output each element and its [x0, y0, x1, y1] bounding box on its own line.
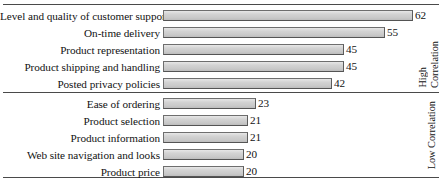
bar-area: 55 [163, 27, 385, 40]
bar [163, 78, 332, 89]
table-row: Level and quality of customer support 62 [0, 8, 442, 25]
table-row: Product selection 21 [0, 113, 442, 130]
table-row: Ease of ordering 23 [0, 96, 442, 113]
group-high-correlation: Level and quality of customer support 62… [0, 8, 442, 90]
bar-category-label: On-time delivery [0, 25, 160, 42]
bar-area: 20 [163, 166, 244, 179]
bar-value-label: 42 [334, 77, 345, 90]
bar-value-label: 20 [246, 148, 257, 161]
table-row: Web site navigation and looks 20 [0, 147, 442, 164]
bar [163, 61, 344, 72]
bar-area: 62 [163, 10, 413, 23]
bar [163, 166, 244, 177]
bar-value-label: 23 [258, 97, 269, 110]
bar-area: 23 [163, 98, 256, 111]
bar-area: 45 [163, 61, 344, 74]
bar-value-label: 45 [346, 60, 357, 73]
correlation-bar-chart: Level and quality of customer support 62… [0, 0, 442, 184]
bar-value-label: 62 [415, 9, 426, 22]
bar-area: 45 [163, 44, 344, 57]
group-caption-line: High [417, 67, 428, 88]
group-caption-low-correlation: Low Correlation [420, 100, 442, 170]
table-row: Product price 20 [0, 164, 442, 181]
bar [163, 115, 248, 126]
bar [163, 132, 248, 143]
bar-value-label: 20 [246, 165, 257, 178]
bar [163, 10, 413, 21]
group-caption-high-correlation: High Correlation [414, 28, 442, 88]
bar-value-label: 21 [250, 114, 261, 127]
table-row: Product shipping and handling 45 [0, 59, 442, 76]
bar-area: 42 [163, 78, 332, 91]
bar-category-label: Ease of ordering [0, 96, 160, 113]
bar-area: 20 [163, 149, 244, 162]
bar-value-label: 21 [250, 131, 261, 144]
bar [163, 98, 256, 109]
table-row: On-time delivery 55 [0, 25, 442, 42]
bar-category-label: Product shipping and handling [0, 59, 160, 76]
bar-value-label: 45 [346, 43, 357, 56]
bar-category-label: Product selection [0, 113, 160, 130]
table-row: Product representation 45 [0, 42, 442, 59]
bar-category-label: Posted privacy policies [0, 76, 160, 93]
bar-area: 21 [163, 115, 248, 128]
bar [163, 149, 244, 160]
bar-category-label: Product information [0, 130, 160, 147]
group-caption-line: Low Correlation [426, 101, 437, 169]
bar-area: 21 [163, 132, 248, 145]
group-caption-line: Correlation [429, 41, 440, 88]
bar-value-label: 55 [387, 26, 398, 39]
top-divider-rule [3, 4, 439, 5]
bar [163, 27, 385, 38]
table-row: Posted privacy policies 42 [0, 76, 442, 93]
bar [163, 44, 344, 55]
group-low-correlation: Ease of ordering 23 Product selection 21… [0, 96, 442, 176]
bar-category-label: Web site navigation and looks [0, 147, 160, 164]
bar-category-label: Level and quality of customer support [0, 8, 160, 25]
bar-category-label: Product representation [0, 42, 160, 59]
bar-category-label: Product price [0, 164, 160, 181]
table-row: Product information 21 [0, 130, 442, 147]
